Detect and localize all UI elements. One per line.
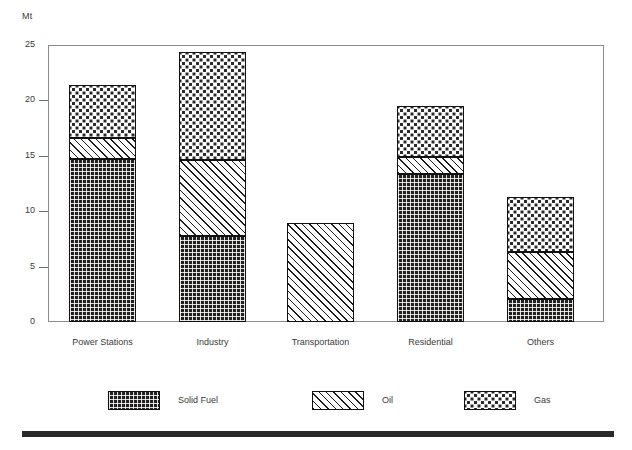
bar-group (69, 45, 136, 322)
x-axis-label-power-stations: Power Stations (72, 337, 133, 347)
y-axis-tick-mark (39, 267, 48, 268)
bar-segment (179, 52, 246, 161)
bar-segment (287, 223, 354, 322)
y-axis-tick-label: 10 (25, 205, 35, 215)
x-axis-label-transportation: Transportation (292, 337, 350, 347)
y-axis-tick-label: 25 (25, 39, 35, 49)
legend-label: Solid Fuel (178, 395, 218, 405)
bar-segment (179, 160, 246, 235)
bar-group (507, 45, 574, 322)
bar-group (397, 45, 464, 322)
bar-segment (507, 197, 574, 252)
bar-segment (507, 252, 574, 299)
y-axis-tick-mark (39, 211, 48, 212)
bar-segment (69, 85, 136, 138)
bars-layer (48, 45, 604, 322)
bar-segment (69, 159, 136, 322)
bar-segment (507, 299, 574, 322)
y-axis-tick-label: 0 (30, 316, 35, 326)
y-axis-tick-label: 5 (30, 261, 35, 271)
legend-swatch (108, 391, 160, 410)
y-axis: 2520151050 (0, 0, 48, 450)
bar-segment (179, 236, 246, 322)
legend-swatch (312, 391, 364, 410)
bar-group (179, 45, 246, 322)
y-axis-tick-label: 15 (25, 150, 35, 160)
legend-label: Oil (382, 395, 393, 405)
bottom-rule (22, 431, 614, 437)
bar-segment (397, 157, 464, 174)
y-axis-tick-label: 20 (25, 94, 35, 104)
bar-segment (69, 138, 136, 159)
x-axis-label-others: Others (527, 337, 554, 347)
bar-group (287, 45, 354, 322)
bar-segment (397, 106, 464, 157)
x-axis-label-industry: Industry (196, 337, 228, 347)
y-axis-tick-mark (39, 156, 48, 157)
x-axis-label-residential: Residential (408, 337, 453, 347)
y-axis-tick-mark (39, 100, 48, 101)
bar-segment (397, 174, 464, 322)
legend-label: Gas (534, 395, 551, 405)
legend-swatch (464, 391, 516, 410)
chart-legend: Solid FuelOilGas (0, 390, 632, 416)
x-axis-category-labels: Power StationsIndustryTransportationResi… (48, 337, 604, 353)
